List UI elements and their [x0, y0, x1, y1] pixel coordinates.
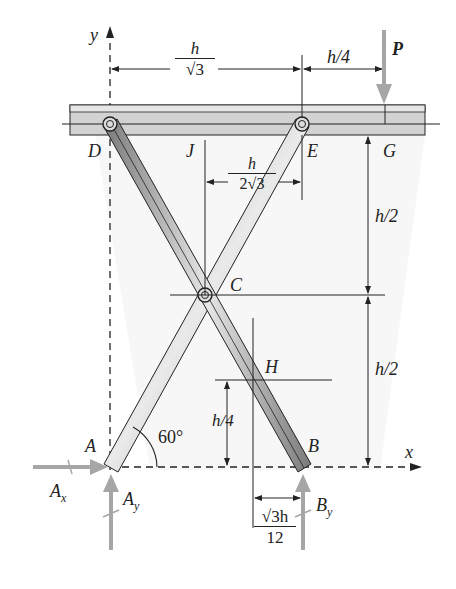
y-axis-arrowhead [106, 26, 114, 38]
reaction-By-arrowhead [295, 474, 311, 492]
dim-H-offset-label: √3h 12 [254, 508, 296, 546]
dim-upper-height-label: h/2 [375, 207, 398, 225]
x-axis-arrowhead [410, 463, 422, 471]
dim-lower-height-label: h/2 [375, 360, 398, 378]
point-E: E [307, 142, 318, 160]
reaction-By-label: By [316, 496, 332, 518]
dim-H-height-label: h/4 [212, 412, 234, 429]
dim-DE-label: h √3 [175, 40, 215, 78]
dim-JE-label: h 2√3 [228, 156, 276, 192]
top-beam-upper-strip [70, 105, 425, 112]
point-B: B [308, 437, 319, 455]
point-C: C [230, 276, 242, 294]
reaction-Ay-label: Ay [123, 490, 139, 512]
pin-E [295, 117, 309, 131]
y-axis-label: y [90, 26, 98, 44]
point-J: J [186, 142, 194, 160]
pin-D [103, 117, 117, 131]
point-G: G [383, 142, 396, 160]
reaction-Ax-label: Ax [50, 482, 66, 504]
diagram-canvas [0, 0, 456, 589]
point-A: A [85, 437, 96, 455]
load-P-arrowhead [376, 84, 392, 104]
point-D: D [88, 142, 101, 160]
reaction-Ay-arrowhead [103, 474, 119, 492]
angle-label: 60° [158, 428, 183, 446]
x-axis-label: x [405, 443, 413, 461]
load-label-P: P [392, 40, 403, 58]
dim-EG-label: h/4 [327, 48, 350, 66]
point-H: H [265, 358, 278, 376]
